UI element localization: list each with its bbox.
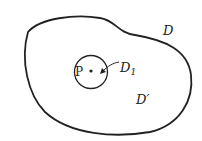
- inner-region-label: D1: [119, 60, 136, 77]
- region-diagram: P D1 D D′: [0, 0, 202, 141]
- outer-region-label: D: [162, 23, 174, 38]
- point-p-dot: [89, 69, 92, 72]
- point-p-label: P: [75, 65, 83, 79]
- complement-region-label: D′: [135, 92, 149, 107]
